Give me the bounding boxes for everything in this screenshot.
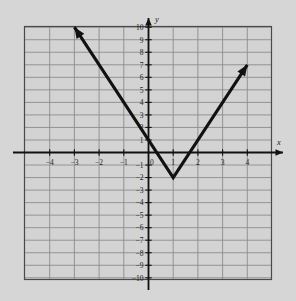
x-tick-label: 2 bbox=[196, 158, 200, 167]
y-tick-label: −10 bbox=[132, 274, 144, 283]
y-axis-label: y bbox=[154, 14, 159, 24]
x-tick-label: 4 bbox=[245, 158, 249, 167]
y-tick-label: 10 bbox=[136, 23, 144, 32]
y-tick-label: −3 bbox=[136, 186, 144, 195]
x-tick-label: 0 bbox=[150, 158, 154, 167]
y-tick-label: 8 bbox=[140, 48, 144, 57]
y-tick-label: 6 bbox=[140, 73, 144, 82]
y-tick-label: 3 bbox=[140, 111, 144, 120]
y-tick-label: −8 bbox=[136, 249, 144, 258]
x-tick-label: −2 bbox=[95, 158, 103, 167]
x-tick-label: −1 bbox=[120, 158, 128, 167]
y-tick-label: 7 bbox=[140, 61, 144, 70]
x-tick-label: −3 bbox=[70, 158, 78, 167]
y-tick-label: −5 bbox=[136, 211, 144, 220]
y-tick-label: −4 bbox=[136, 198, 144, 207]
x-tick-label: −4 bbox=[46, 158, 54, 167]
graph-figure: −4−3−2−101234 10987654321−1−2−3−4−5−6−7−… bbox=[0, 0, 296, 301]
x-tick-label: 1 bbox=[171, 158, 175, 167]
x-tick-label: 3 bbox=[221, 158, 225, 167]
y-tick-label: −9 bbox=[136, 261, 144, 270]
y-tick-label: 9 bbox=[140, 36, 144, 45]
y-tick-label: −1 bbox=[136, 161, 144, 170]
y-tick-label: 1 bbox=[140, 136, 144, 145]
x-axis-label: x bbox=[276, 137, 281, 147]
y-tick-label: −2 bbox=[136, 173, 144, 182]
coordinate-plane-svg: −4−3−2−101234 10987654321−1−2−3−4−5−6−7−… bbox=[0, 0, 296, 301]
y-tick-label: 5 bbox=[140, 86, 144, 95]
y-tick-label: −6 bbox=[136, 223, 144, 232]
y-tick-label: −7 bbox=[136, 236, 144, 245]
y-tick-label: 4 bbox=[140, 98, 144, 107]
